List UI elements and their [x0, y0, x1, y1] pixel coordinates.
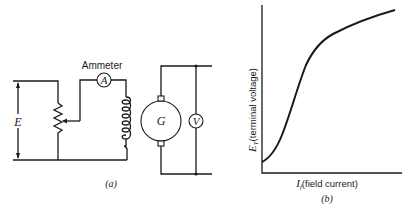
ammeter-label: Ammeter: [82, 60, 123, 71]
generator-bottom-wire: [161, 143, 212, 174]
arrow-down-icon: [16, 153, 20, 159]
chart-axes: [262, 5, 402, 173]
brush-top-icon: [158, 96, 164, 101]
wiper-arrowhead-icon: [62, 119, 67, 124]
panel-b-caption: (b): [321, 193, 333, 205]
x-axis-label: If(field current): [295, 177, 358, 191]
generator-symbol: G: [157, 114, 166, 128]
brush-bottom-icon: [158, 141, 164, 146]
figure-canvas: A Ammeter E G V (a) ET(terminal: [0, 0, 406, 213]
panel-a-caption: (a): [105, 178, 117, 190]
ammeter-symbol: A: [100, 74, 108, 86]
generator-top-wire: [161, 66, 212, 98]
magnetization-curve: [262, 10, 395, 162]
x-label-text: (field current): [302, 178, 358, 189]
junction-dot: [194, 172, 197, 175]
y-label-text: (terminal voltage): [247, 68, 258, 141]
circuit-diagram: A Ammeter E G V (a): [11, 60, 212, 190]
source-label: E: [13, 115, 22, 129]
y-axis-label: ET(terminal voltage): [246, 68, 260, 153]
arrow-up-icon: [16, 82, 20, 88]
rheostat-icon: [54, 103, 62, 160]
top-wire: [13, 81, 58, 103]
junction-dot: [194, 64, 197, 67]
wiper-to-ammeter-wire: [80, 80, 97, 121]
ammeter-to-coil-wire: [111, 80, 126, 97]
svg-text:ET(terminal voltage): ET(terminal voltage): [246, 68, 260, 153]
magnetization-chart: ET(terminal voltage) If(field current) (…: [246, 5, 402, 205]
field-coil-icon: [122, 97, 130, 160]
